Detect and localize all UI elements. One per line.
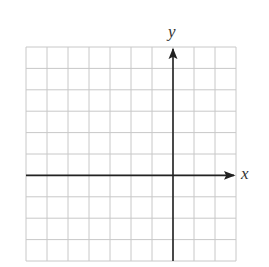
x-axis-label: x — [241, 165, 249, 182]
y-axis-label: y — [168, 23, 176, 40]
grid-lines — [26, 47, 236, 261]
coordinate-plane — [0, 0, 269, 267]
